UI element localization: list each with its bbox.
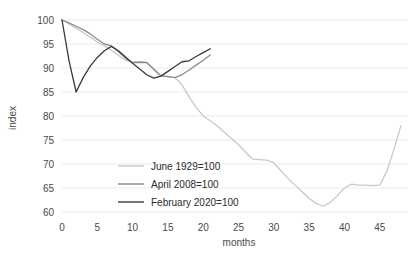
y-tick-label: 95	[43, 39, 55, 50]
x-tick-label: 30	[268, 222, 280, 233]
y-tick-label: 65	[43, 183, 55, 194]
x-tick-label: 15	[162, 222, 174, 233]
y-tick-label: 85	[43, 87, 55, 98]
legend-label: April 2008=100	[151, 179, 219, 190]
x-tick-label: 25	[233, 222, 245, 233]
y-tick-label: 100	[37, 15, 54, 26]
y-axis-title: index	[7, 106, 18, 130]
y-tick-label: 70	[43, 159, 55, 170]
y-tick-label: 60	[43, 207, 55, 218]
x-tick-label: 0	[59, 222, 65, 233]
x-tick-label: 10	[127, 222, 139, 233]
x-axis-title: months	[223, 237, 256, 248]
chart-container: 6065707580859095100 051015202530354045 J…	[0, 0, 416, 255]
gridlines-group	[62, 20, 408, 212]
data-series-group	[62, 20, 401, 206]
x-tick-label: 35	[304, 222, 316, 233]
x-tick-label: 45	[374, 222, 386, 233]
chart-legend: June 1929=100April 2008=100February 2020…	[118, 161, 239, 208]
y-axis-tick-labels: 6065707580859095100	[37, 15, 54, 218]
x-tick-label: 5	[95, 222, 101, 233]
x-axis-tick-labels: 051015202530354045	[59, 222, 386, 233]
data-series-line	[62, 20, 210, 78]
x-tick-label: 40	[339, 222, 351, 233]
y-tick-label: 90	[43, 63, 55, 74]
y-tick-label: 75	[43, 135, 55, 146]
legend-label: February 2020=100	[151, 197, 239, 208]
legend-label: June 1929=100	[151, 161, 221, 172]
x-tick-label: 20	[198, 222, 210, 233]
line-chart: 6065707580859095100 051015202530354045 J…	[0, 0, 416, 255]
y-tick-label: 80	[43, 111, 55, 122]
